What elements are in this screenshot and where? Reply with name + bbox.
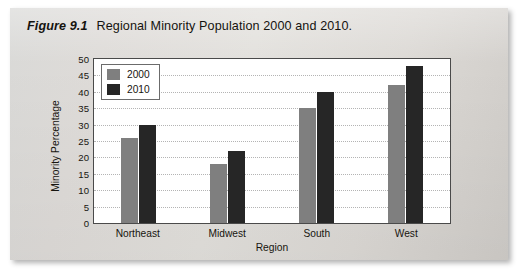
figure-root: Figure 9.1Regional Minority Population 2… bbox=[0, 0, 527, 275]
legend-swatch-2010 bbox=[107, 84, 120, 95]
y-axis-title: Minority Percentage bbox=[50, 100, 61, 192]
y-axis-tick-label: 10 bbox=[78, 185, 89, 196]
x-axis-tick-label-midwest: Midwest bbox=[190, 228, 264, 239]
y-axis-tick-label: 0 bbox=[84, 218, 89, 229]
legend-label-2000: 2000 bbox=[127, 69, 150, 80]
bar-northeast-2010[interactable] bbox=[139, 125, 156, 223]
x-axis-tick-label-south: South bbox=[280, 228, 354, 239]
y-axis-tick-label: 25 bbox=[78, 136, 89, 147]
y-axis-ticks: 50454035302520151050 bbox=[63, 58, 89, 224]
y-axis-tick-label: 20 bbox=[78, 152, 89, 163]
x-axis-ticks: NortheastMidwestSouthWest bbox=[93, 228, 451, 239]
y-axis-tick-label: 35 bbox=[78, 103, 89, 114]
bar-west-2010[interactable] bbox=[406, 66, 423, 223]
bar-group bbox=[369, 59, 443, 223]
figure-caption-text: Regional Minority Population 2000 and 20… bbox=[97, 19, 353, 33]
x-axis-tick-label-northeast: Northeast bbox=[101, 228, 175, 239]
y-axis-tick-label: 5 bbox=[84, 201, 89, 212]
figure-number: Figure 9.1 bbox=[27, 19, 88, 33]
bar-group bbox=[280, 59, 354, 223]
y-axis-tick-label: 40 bbox=[78, 86, 89, 97]
bar-group bbox=[191, 59, 265, 223]
bar-chart: Minority Percentage 50454035302520151050… bbox=[27, 46, 471, 246]
bar-midwest-2000[interactable] bbox=[210, 164, 227, 223]
chart-legend: 20002010 bbox=[101, 64, 160, 100]
bar-midwest-2010[interactable] bbox=[228, 151, 245, 223]
legend-swatch-2000 bbox=[107, 69, 120, 80]
legend-item-2000[interactable]: 2000 bbox=[107, 69, 150, 80]
x-axis-tick-label-west: West bbox=[369, 228, 443, 239]
legend-label-2010: 2010 bbox=[127, 84, 150, 95]
x-axis-title: Region bbox=[93, 242, 451, 253]
y-axis-tick-label: 30 bbox=[78, 119, 89, 130]
y-axis-tick-label: 15 bbox=[78, 168, 89, 179]
y-axis-tick-label: 50 bbox=[78, 54, 89, 65]
bar-south-2010[interactable] bbox=[317, 92, 334, 223]
bar-south-2000[interactable] bbox=[299, 108, 316, 223]
legend-item-2010[interactable]: 2010 bbox=[107, 84, 150, 95]
y-axis-tick-label: 45 bbox=[78, 70, 89, 81]
bar-west-2000[interactable] bbox=[388, 85, 405, 223]
figure-caption: Figure 9.1Regional Minority Population 2… bbox=[27, 19, 352, 33]
bar-northeast-2000[interactable] bbox=[121, 138, 138, 223]
